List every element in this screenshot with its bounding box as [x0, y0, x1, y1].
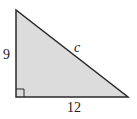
triangle-shape — [16, 10, 128, 97]
horizontal-leg-label: 12 — [67, 100, 81, 115]
right-triangle-diagram: 9 c 12 — [0, 0, 137, 119]
vertical-leg-label: 9 — [3, 47, 10, 62]
hypotenuse-label: c — [74, 40, 81, 55]
